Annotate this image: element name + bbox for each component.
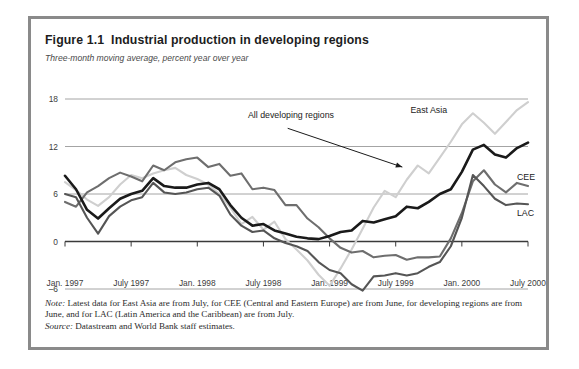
note-text: Latest data for East Asia are from July,… [45,298,522,319]
source-label: Source: [45,321,73,331]
note-paragraph: Note: Latest data for East Asia are from… [45,298,531,321]
series-label-east-asia: East Asia [410,105,447,115]
source-paragraph: Source: Datastream and World Bank staff … [45,321,531,332]
source-text: Datastream and World Bank staff estimate… [73,321,235,331]
y-axis-tick-label: 6 [53,189,58,199]
series-label-lac: LAC [517,208,535,218]
figure-title: Figure 1.1 Industrial production in deve… [45,33,369,47]
line-chart: –6061218Jan. 1997July 1997Jan. 1998July … [31,65,546,293]
x-axis-tick-label: July 1998 [245,278,281,288]
annotation-label-all-developing-regions: All developing regions [248,110,335,120]
annotation-arrowhead [395,163,402,168]
x-axis-tick-label: Jan. 1997 [47,278,84,288]
figure-inner: Figure 1.1 Industrial production in deve… [31,19,546,347]
annotation-leader-line [288,128,403,167]
figure-frame: Figure 1.1 Industrial production in deve… [28,16,549,350]
x-axis-tick-label: Jan. 2000 [443,278,480,288]
note-label: Note: [45,298,65,308]
x-axis-tick-label: Jan. 1998 [179,278,216,288]
x-axis-tick-label: July 1999 [378,278,414,288]
figure-notes: Note: Latest data for East Asia are from… [45,298,531,332]
series-label-cee: CEE [517,172,535,182]
chart-plot-area: –6061218Jan. 1997July 1997Jan. 1998July … [31,65,546,293]
series-line-cee [65,158,528,260]
x-axis-tick-label: July 2000 [510,278,546,288]
figure-subtitle: Three-month moving average, percent year… [45,53,249,63]
y-axis-tick-label: 18 [49,94,59,104]
x-axis-tick-label: July 1997 [113,278,149,288]
y-axis-tick-label: 12 [49,142,59,152]
y-axis-tick-label: 0 [53,237,58,247]
